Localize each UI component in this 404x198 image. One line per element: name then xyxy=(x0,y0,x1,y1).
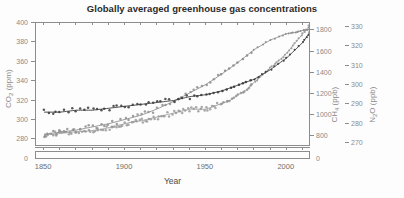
data-point xyxy=(284,54,286,56)
data-point xyxy=(79,128,82,131)
data-point xyxy=(84,130,87,133)
ch4-axis-title: CH4 (ppb) xyxy=(330,75,339,135)
data-point xyxy=(96,129,99,132)
co2-zero-label: 0 xyxy=(24,155,28,162)
n2o-tick-label: 270 xyxy=(351,139,363,146)
data-point xyxy=(150,118,153,121)
data-point xyxy=(58,129,61,132)
x-tick-label: 1850 xyxy=(35,162,52,171)
data-point xyxy=(161,104,164,107)
data-point xyxy=(213,78,216,81)
data-point xyxy=(222,101,225,104)
x-tick xyxy=(205,22,206,25)
ch4-tick-label: 1200 xyxy=(316,90,332,97)
data-point xyxy=(294,49,296,51)
x-tick xyxy=(205,147,206,150)
data-point xyxy=(159,100,162,103)
data-point xyxy=(54,110,57,113)
n2o-tick-label: 300 xyxy=(351,81,363,88)
data-point xyxy=(177,98,180,101)
data-point xyxy=(296,40,298,42)
data-point xyxy=(299,30,301,32)
data-point xyxy=(243,90,246,93)
data-point xyxy=(249,79,252,82)
greenhouse-gas-chart-figure: Globally averaged greenhouse gas concent… xyxy=(0,0,404,198)
data-point xyxy=(303,39,305,41)
data-point xyxy=(277,63,279,65)
data-point xyxy=(52,113,55,116)
x-tick xyxy=(221,147,222,150)
ch4-tick-label: 800 xyxy=(316,132,328,139)
data-point xyxy=(253,49,255,51)
data-point xyxy=(63,109,65,112)
data-point xyxy=(301,35,303,37)
data-point xyxy=(131,103,134,106)
x-tick xyxy=(270,22,271,25)
n2o-tick xyxy=(345,45,349,46)
x-axis-title: Year xyxy=(0,176,345,186)
data-point xyxy=(103,108,106,111)
data-point xyxy=(205,106,208,109)
data-point xyxy=(265,41,267,43)
data-point xyxy=(115,104,118,107)
data-point xyxy=(107,124,110,127)
chart-title: Globally averaged greenhouse gas concent… xyxy=(0,3,404,14)
data-point xyxy=(298,45,300,47)
x-tick xyxy=(189,22,190,25)
data-point xyxy=(44,135,47,138)
data-point xyxy=(217,91,220,94)
data-point xyxy=(192,107,195,110)
data-point xyxy=(156,100,159,103)
data-point xyxy=(261,73,263,75)
data-point xyxy=(52,130,55,133)
data-point xyxy=(132,121,135,124)
ch4-zero-label: 0 xyxy=(316,155,320,162)
data-point xyxy=(78,132,81,135)
n2o-tick xyxy=(345,65,349,66)
data-point xyxy=(269,39,271,41)
x-tick xyxy=(92,147,93,150)
data-point xyxy=(96,108,99,111)
data-point xyxy=(185,94,188,97)
data-point xyxy=(179,110,182,113)
data-point xyxy=(175,112,178,115)
data-point xyxy=(193,94,196,97)
x-tick xyxy=(124,22,125,25)
data-point xyxy=(201,85,204,88)
x-tick xyxy=(189,147,190,150)
data-point xyxy=(108,109,111,112)
ch4-tick xyxy=(310,29,314,30)
n2o-tick-label: 330 xyxy=(351,22,363,29)
data-point xyxy=(250,83,253,86)
data-point xyxy=(164,104,167,107)
data-point xyxy=(84,125,87,128)
co2-tick-label: 400 xyxy=(16,19,28,26)
data-point xyxy=(135,120,138,123)
data-point xyxy=(246,89,249,92)
data-point xyxy=(192,88,195,91)
x-tick xyxy=(108,147,109,150)
data-point xyxy=(282,34,284,36)
x-tick xyxy=(253,22,254,25)
data-point xyxy=(216,102,219,105)
data-point xyxy=(257,46,259,48)
data-point xyxy=(189,91,192,94)
data-point xyxy=(67,111,70,114)
data-point xyxy=(297,31,299,33)
data-point xyxy=(79,107,82,110)
data-point xyxy=(187,107,190,110)
data-point xyxy=(273,65,275,67)
data-point xyxy=(120,104,123,107)
data-point xyxy=(233,85,236,88)
data-point xyxy=(46,133,49,136)
data-point xyxy=(242,58,245,61)
data-point xyxy=(245,81,248,84)
data-point xyxy=(184,109,187,112)
data-point xyxy=(274,38,276,40)
data-point xyxy=(127,106,130,109)
data-point xyxy=(105,129,108,132)
data-point xyxy=(93,130,96,133)
data-point xyxy=(166,111,169,114)
data-point xyxy=(270,69,272,71)
data-point xyxy=(254,81,256,83)
